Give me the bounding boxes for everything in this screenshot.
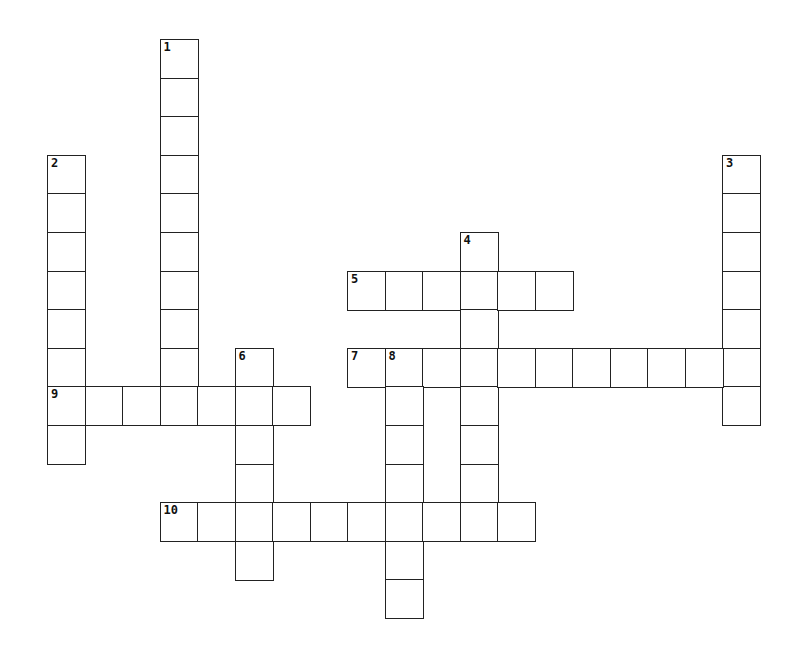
crossword-cell[interactable] bbox=[422, 271, 461, 311]
clue-number: 4 bbox=[464, 234, 471, 246]
crossword-cell[interactable] bbox=[160, 155, 199, 195]
crossword-cell[interactable] bbox=[272, 502, 311, 542]
crossword-cell[interactable]: 6 bbox=[235, 348, 274, 388]
crossword-cell[interactable] bbox=[235, 541, 274, 581]
crossword-cell[interactable]: 1 bbox=[160, 39, 199, 79]
crossword-cell[interactable] bbox=[460, 386, 499, 426]
crossword-cell[interactable] bbox=[385, 271, 424, 311]
crossword-cell[interactable]: 4 bbox=[460, 232, 499, 272]
crossword-cell[interactable] bbox=[47, 271, 86, 311]
crossword-cell[interactable] bbox=[685, 348, 724, 388]
crossword-cell[interactable]: 7 bbox=[347, 348, 386, 388]
crossword-cell[interactable] bbox=[722, 386, 761, 426]
crossword-cell[interactable] bbox=[535, 271, 574, 311]
clue-number: 6 bbox=[239, 350, 246, 362]
crossword-cell[interactable] bbox=[310, 502, 349, 542]
crossword-cell[interactable] bbox=[460, 309, 499, 349]
crossword-cell[interactable] bbox=[160, 386, 199, 426]
crossword-cell[interactable]: 10 bbox=[160, 502, 199, 542]
crossword-cell[interactable] bbox=[460, 502, 499, 542]
crossword-cell[interactable] bbox=[160, 309, 199, 349]
crossword-cell[interactable] bbox=[497, 271, 536, 311]
crossword-cell[interactable] bbox=[235, 464, 274, 504]
crossword-cell[interactable] bbox=[347, 502, 386, 542]
crossword-cell[interactable] bbox=[122, 386, 161, 426]
crossword-cell[interactable]: 5 bbox=[347, 271, 386, 311]
crossword-cell[interactable] bbox=[722, 193, 761, 233]
crossword-cell[interactable] bbox=[197, 386, 236, 426]
crossword-cell[interactable]: 8 bbox=[385, 348, 424, 388]
crossword-cell[interactable] bbox=[535, 348, 574, 388]
crossword-cell[interactable] bbox=[460, 271, 499, 311]
crossword-cell[interactable] bbox=[722, 309, 761, 349]
crossword-cell[interactable] bbox=[160, 348, 199, 388]
crossword-cell[interactable] bbox=[647, 348, 686, 388]
crossword-cell[interactable] bbox=[572, 348, 611, 388]
clue-number: 9 bbox=[51, 388, 58, 400]
crossword-cell[interactable] bbox=[160, 193, 199, 233]
crossword-cell[interactable] bbox=[722, 348, 761, 388]
crossword-cell[interactable] bbox=[385, 425, 424, 465]
crossword-cell[interactable] bbox=[460, 425, 499, 465]
crossword-cell[interactable]: 2 bbox=[47, 155, 86, 195]
crossword-cell[interactable] bbox=[385, 502, 424, 542]
crossword-cell[interactable]: 3 bbox=[722, 155, 761, 195]
crossword-cell[interactable] bbox=[722, 271, 761, 311]
clue-number: 5 bbox=[351, 273, 358, 285]
crossword-cell[interactable] bbox=[422, 348, 461, 388]
crossword-cell[interactable] bbox=[497, 502, 536, 542]
crossword-cell[interactable] bbox=[47, 193, 86, 233]
clue-number: 2 bbox=[51, 157, 58, 169]
clue-number: 1 bbox=[164, 41, 171, 53]
crossword-cell[interactable] bbox=[47, 309, 86, 349]
crossword-cell[interactable] bbox=[235, 425, 274, 465]
crossword-cell[interactable] bbox=[385, 579, 424, 619]
crossword-cell[interactable] bbox=[47, 425, 86, 465]
crossword-cell[interactable] bbox=[722, 232, 761, 272]
crossword-cell[interactable] bbox=[160, 116, 199, 156]
crossword-cell[interactable] bbox=[160, 271, 199, 311]
clue-number: 7 bbox=[351, 350, 358, 362]
crossword-cell[interactable] bbox=[85, 386, 124, 426]
crossword-cell[interactable] bbox=[460, 464, 499, 504]
crossword-cell[interactable] bbox=[385, 541, 424, 581]
crossword-cell[interactable] bbox=[47, 232, 86, 272]
crossword-cell[interactable] bbox=[160, 78, 199, 118]
crossword-cell[interactable] bbox=[47, 348, 86, 388]
crossword-cell[interactable] bbox=[235, 502, 274, 542]
crossword-cell[interactable] bbox=[385, 386, 424, 426]
crossword-cell[interactable] bbox=[422, 502, 461, 542]
clue-number: 10 bbox=[164, 504, 178, 516]
clue-number: 8 bbox=[389, 350, 396, 362]
crossword-cell[interactable] bbox=[197, 502, 236, 542]
crossword-cell[interactable] bbox=[460, 348, 499, 388]
crossword-cell[interactable] bbox=[497, 348, 536, 388]
crossword-cell[interactable] bbox=[610, 348, 649, 388]
crossword-cell[interactable] bbox=[272, 386, 311, 426]
crossword-cell[interactable]: 9 bbox=[47, 386, 86, 426]
crossword-cell[interactable] bbox=[385, 464, 424, 504]
crossword-cell[interactable] bbox=[235, 386, 274, 426]
crossword-cell[interactable] bbox=[160, 232, 199, 272]
crossword-grid: 12934567810 bbox=[0, 0, 797, 654]
clue-number: 3 bbox=[726, 157, 733, 169]
